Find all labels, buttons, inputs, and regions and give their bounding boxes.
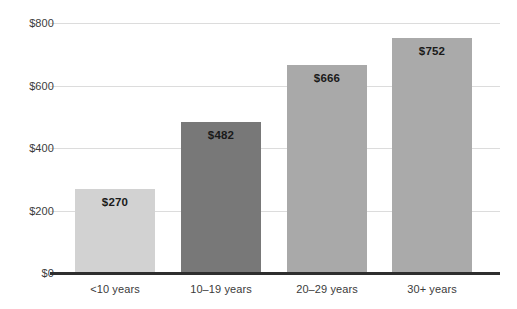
bar[interactable]: $270: [75, 189, 155, 273]
bar[interactable]: $482: [181, 122, 261, 273]
bar[interactable]: $752: [392, 38, 472, 273]
bar[interactable]: $666: [287, 65, 367, 273]
x-axis-tick-label: 20–29 years: [287, 283, 367, 295]
x-axis-line: [50, 272, 500, 275]
bars-group: $270$482$666$752: [0, 0, 517, 309]
bar-value-label: $270: [75, 196, 155, 208]
bar-value-label: $752: [392, 45, 472, 57]
bar-value-label: $482: [181, 129, 261, 141]
bar-chart: $0$200$400$600$800 $270$482$666$752 <10 …: [0, 0, 517, 309]
bar-value-label: $666: [287, 72, 367, 84]
x-axis-tick-label: 30+ years: [392, 283, 472, 295]
x-axis-tick-label: <10 years: [75, 283, 155, 295]
x-axis-tick-label: 10–19 years: [181, 283, 261, 295]
